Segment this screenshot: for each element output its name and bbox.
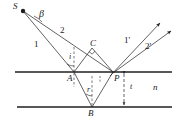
label-ray-2: 2 — [60, 26, 65, 35]
ray-diagram-figure: S A B C P β i r 1 2 1' 2' n t — [0, 0, 183, 123]
label-point-c: C — [90, 39, 96, 48]
label-angle-refraction: r — [87, 86, 90, 94]
incident-ray-1 — [23, 11, 74, 72]
outgoing-ray-1-prime — [110, 23, 160, 76]
label-ray-1-prime: 1' — [124, 36, 130, 45]
angle-arc-refraction — [86, 94, 92, 96]
label-refractive-index: n — [153, 83, 158, 92]
label-ray-2-prime: 2' — [145, 42, 151, 51]
reflected-ray-bp — [92, 72, 113, 107]
label-point-p: P — [114, 74, 120, 83]
label-thickness: t — [130, 83, 132, 91]
right-angle-mark-c — [89, 51, 95, 54]
diagram-canvas — [0, 0, 183, 123]
label-point-s: S — [13, 2, 18, 11]
label-point-a: A — [67, 74, 73, 83]
label-ray-1: 1 — [34, 40, 39, 49]
label-angle-beta: β — [39, 9, 44, 19]
source-dot — [21, 9, 25, 13]
outgoing-ray-2-prime — [113, 31, 171, 73]
label-angle-incidence: i — [69, 53, 71, 61]
label-point-b: B — [88, 109, 94, 118]
